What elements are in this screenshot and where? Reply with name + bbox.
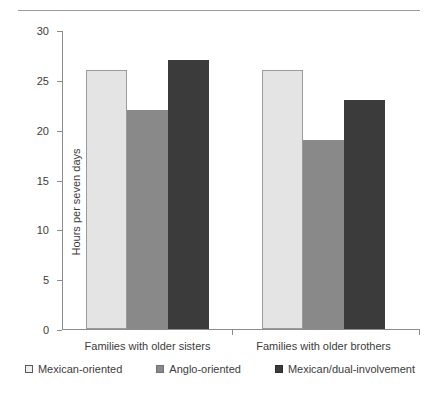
y-axis-tick-label: 5: [43, 274, 49, 286]
y-axis-tick-label: 30: [37, 25, 49, 37]
y-axis-tick: 15: [57, 181, 62, 182]
y-axis-tick-label: 10: [37, 224, 49, 236]
legend-item: Mexican-oriented: [25, 363, 122, 375]
y-axis-tick: 30: [57, 31, 62, 32]
bar: [127, 110, 168, 329]
legend-swatch: [156, 365, 164, 373]
bar: [168, 60, 209, 329]
y-axis-tick: 0: [57, 330, 62, 331]
x-axis-line: [62, 329, 420, 330]
y-axis-tick: 10: [57, 230, 62, 231]
y-axis-tick: 25: [57, 81, 62, 82]
plot-area: 051015202530: [62, 31, 420, 330]
y-axis-tick: 20: [57, 131, 62, 132]
legend-item: Anglo-oriented: [156, 363, 241, 375]
y-axis-tick-label: 0: [43, 324, 49, 336]
x-axis-category-label: Families with older sisters: [85, 340, 211, 352]
x-axis-category-label: Families with older brothers: [256, 340, 391, 352]
bar: [344, 100, 385, 329]
y-axis-tick-label: 15: [37, 175, 49, 187]
bar: [303, 140, 344, 329]
x-axis-tick: [419, 330, 420, 335]
legend-label: Anglo-oriented: [169, 363, 241, 375]
legend-swatch: [25, 365, 33, 373]
bar-chart-figure: Hours per seven days 051015202530 Famili…: [0, 0, 440, 403]
top-divider-rule: [18, 10, 420, 11]
bar: [262, 70, 303, 329]
legend-label: Mexican/dual-involvement: [288, 363, 415, 375]
y-axis-tick-label: 20: [37, 125, 49, 137]
legend-swatch: [275, 365, 283, 373]
bar: [86, 70, 127, 329]
y-axis-tick: 5: [57, 280, 62, 281]
legend-label: Mexican-oriented: [38, 363, 122, 375]
y-axis-tick-label: 25: [37, 75, 49, 87]
legend-item: Mexican/dual-involvement: [275, 363, 415, 375]
chart-legend: Mexican-orientedAnglo-orientedMexican/du…: [0, 363, 440, 375]
x-axis-tick: [232, 330, 233, 335]
y-axis-line: [62, 31, 63, 330]
